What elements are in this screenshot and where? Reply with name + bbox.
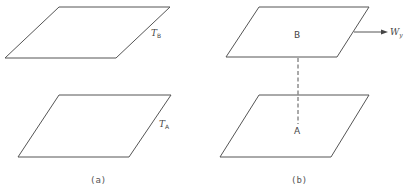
panel-a-bottom-plane xyxy=(18,95,171,157)
panel-b-caption: (b) xyxy=(291,175,307,185)
panel-b-point-b-label: B xyxy=(294,30,300,40)
panel-b-arrow-label: Wy xyxy=(390,27,403,39)
panel-a-caption: (a) xyxy=(90,175,106,185)
panel-a: TB TA (a) xyxy=(5,7,171,185)
panel-b-point-a-label: A xyxy=(294,126,301,136)
diagram-canvas: TB TA (a) B A Wy (b) xyxy=(0,0,406,189)
arrow-icon xyxy=(354,30,388,35)
panel-b: B A Wy (b) xyxy=(220,7,403,185)
panel-a-top-label: TB xyxy=(151,28,161,39)
panel-a-top-plane xyxy=(5,7,170,58)
panel-a-bottom-label: TA xyxy=(159,119,170,130)
